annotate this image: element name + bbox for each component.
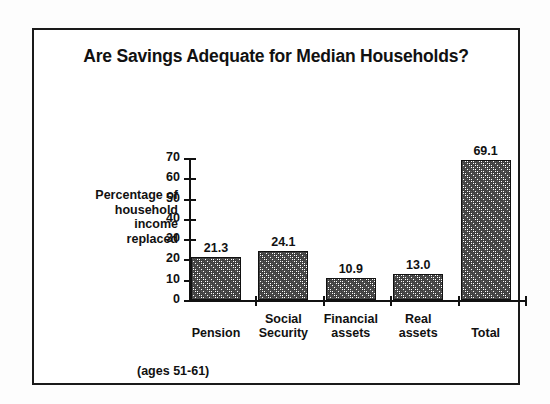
x-tick-mark <box>458 296 460 306</box>
y-tick-mark <box>184 219 196 221</box>
x-axis-label-total: Total <box>453 326 519 340</box>
y-tick-label: 30 <box>166 231 180 245</box>
x-tick-mark <box>390 296 392 306</box>
bar-value-label: 24.1 <box>271 235 295 249</box>
y-tick-mark <box>184 178 196 180</box>
y-tick-label: 50 <box>166 191 180 205</box>
x-axis-label-real-assets: Real assets <box>385 312 451 340</box>
bar-pension: 21.3 <box>191 257 241 300</box>
y-tick-mark <box>184 300 196 302</box>
bar-total: 69.1 <box>461 160 511 300</box>
bar-financial-assets: 10.9 <box>326 278 376 300</box>
y-tick-label: 60 <box>166 170 180 184</box>
bar-real-assets: 13.0 <box>393 274 443 300</box>
x-tick-mark <box>323 296 325 306</box>
chart-frame: Are Savings Adequate for Median Househol… <box>32 28 520 385</box>
bar-social-security: 24.1 <box>258 251 308 300</box>
footnote-ages: (ages 51-61) <box>137 364 209 378</box>
bar-value-label: 21.3 <box>204 241 228 255</box>
bar-value-label: 69.1 <box>473 144 497 158</box>
bar-value-label: 13.0 <box>406 258 430 272</box>
y-tick-mark <box>184 239 196 241</box>
y-tick-label: 70 <box>166 150 180 164</box>
x-tick-mark <box>525 296 527 306</box>
y-tick-label: 0 <box>173 292 180 306</box>
bar-value-label: 10.9 <box>339 262 363 276</box>
x-axis-line <box>189 300 526 302</box>
y-tick-label: 10 <box>166 272 180 286</box>
x-axis-label-social-security: Social Security <box>250 312 316 340</box>
x-axis-label-pension: Pension <box>183 326 249 340</box>
x-tick-mark <box>255 296 257 306</box>
page-title: Are Savings Adequate for Median Househol… <box>34 46 518 67</box>
x-axis-label-financial-assets: Financial assets <box>318 312 384 340</box>
page-background: Are Savings Adequate for Median Househol… <box>0 0 550 404</box>
y-axis-title: Percentage of household income replaced <box>70 188 178 246</box>
y-tick-mark <box>184 199 196 201</box>
plot-area: 010203040506070 21.324.110.913.069.1 Pen… <box>189 155 526 300</box>
y-tick-mark <box>184 158 196 160</box>
y-tick-label: 40 <box>166 211 180 225</box>
y-tick-label: 20 <box>166 251 180 265</box>
